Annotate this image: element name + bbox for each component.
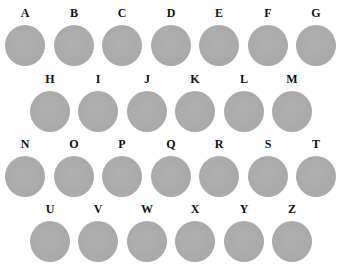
letter-label: Y — [220, 202, 268, 216]
circle-button-q[interactable] — [151, 156, 191, 197]
letter-cell-v: V — [74, 202, 122, 268]
letter-cell-g: G — [292, 6, 340, 72]
circle-button-p[interactable] — [102, 156, 142, 197]
letter-cell-l: L — [220, 72, 268, 138]
letter-label: V — [74, 202, 122, 216]
circle-button-m[interactable] — [272, 91, 312, 132]
letter-cell-r: R — [195, 137, 243, 203]
letter-cell-c: C — [98, 6, 146, 72]
letter-cell-b: B — [50, 6, 98, 72]
letter-label: Q — [147, 137, 195, 151]
letter-label: N — [1, 137, 49, 151]
letter-cell-x: X — [171, 202, 219, 268]
letter-cell-k: K — [171, 72, 219, 138]
circle-button-v[interactable] — [78, 221, 118, 262]
letter-cell-s: S — [244, 137, 292, 203]
letter-cell-a: A — [1, 6, 49, 72]
letter-cell-f: F — [244, 6, 292, 72]
letter-cell-n: N — [1, 137, 49, 203]
letter-label: X — [171, 202, 219, 216]
letter-label: D — [147, 6, 195, 20]
circle-button-g[interactable] — [296, 25, 336, 66]
circle-button-r[interactable] — [199, 156, 239, 197]
letter-label: U — [26, 202, 74, 216]
circle-button-h[interactable] — [30, 91, 70, 132]
circle-button-s[interactable] — [248, 156, 288, 197]
letter-label: T — [292, 137, 340, 151]
letter-label: O — [50, 137, 98, 151]
letter-cell-o: O — [50, 137, 98, 203]
circle-button-w[interactable] — [127, 221, 167, 262]
letter-cell-m: M — [268, 72, 316, 138]
letter-label: M — [268, 72, 316, 86]
circle-button-i[interactable] — [78, 91, 118, 132]
letter-label: K — [171, 72, 219, 86]
letter-label: S — [244, 137, 292, 151]
circle-button-l[interactable] — [224, 91, 264, 132]
circle-button-a[interactable] — [5, 25, 45, 66]
circle-button-k[interactable] — [175, 91, 215, 132]
letter-label: H — [26, 72, 74, 86]
circle-button-z[interactable] — [272, 221, 312, 262]
letter-label: L — [220, 72, 268, 86]
circle-button-c[interactable] — [102, 25, 142, 66]
letter-cell-p: P — [98, 137, 146, 203]
circle-button-o[interactable] — [54, 156, 94, 197]
letter-cell-u: U — [26, 202, 74, 268]
letter-cell-w: W — [123, 202, 171, 268]
letter-label: E — [195, 6, 243, 20]
letter-cell-t: T — [292, 137, 340, 203]
circle-button-f[interactable] — [248, 25, 288, 66]
circle-button-x[interactable] — [175, 221, 215, 262]
letter-label: F — [244, 6, 292, 20]
letter-label: J — [123, 72, 171, 86]
letter-cell-d: D — [147, 6, 195, 72]
letter-cell-i: I — [74, 72, 122, 138]
letter-cell-z: Z — [268, 202, 316, 268]
letter-label: C — [98, 6, 146, 20]
letter-cell-j: J — [123, 72, 171, 138]
letter-cell-q: Q — [147, 137, 195, 203]
letter-label: W — [123, 202, 171, 216]
circle-button-b[interactable] — [54, 25, 94, 66]
letter-circle-board: ABCDEFGHIJKLMNOPQRSTUVWXYZ — [0, 0, 343, 270]
circle-button-n[interactable] — [5, 156, 45, 197]
letter-cell-y: Y — [220, 202, 268, 268]
circle-button-u[interactable] — [30, 221, 70, 262]
circle-button-d[interactable] — [151, 25, 191, 66]
letter-label: P — [98, 137, 146, 151]
circle-button-j[interactable] — [127, 91, 167, 132]
letter-cell-h: H — [26, 72, 74, 138]
letter-label: B — [50, 6, 98, 20]
letter-label: A — [1, 6, 49, 20]
letter-label: G — [292, 6, 340, 20]
letter-label: R — [195, 137, 243, 151]
letter-label: Z — [268, 202, 316, 216]
letter-label: I — [74, 72, 122, 86]
circle-button-y[interactable] — [224, 221, 264, 262]
letter-cell-e: E — [195, 6, 243, 72]
circle-button-e[interactable] — [199, 25, 239, 66]
circle-button-t[interactable] — [296, 156, 336, 197]
